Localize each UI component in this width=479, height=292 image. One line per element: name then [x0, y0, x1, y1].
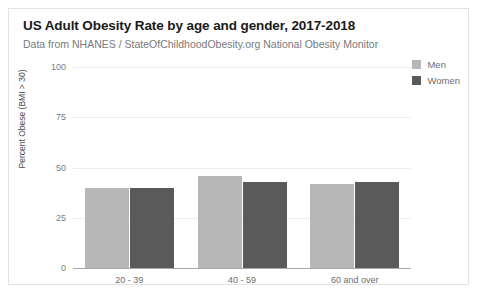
bar-men[interactable]: [198, 176, 242, 268]
y-tick-label-50: 50: [56, 163, 66, 173]
bar-pair: [298, 67, 411, 268]
y-tick-label-75: 75: [56, 112, 66, 122]
x-tick-label: 40 - 59: [186, 275, 299, 285]
plot-wrapper: Percent Obese (BMI > 30) 0255075100 20 -…: [9, 9, 470, 286]
y-tick-label-0: 0: [61, 263, 66, 273]
bar-men[interactable]: [85, 188, 129, 268]
y-axis-title: Percent Obese (BMI > 30): [17, 54, 27, 184]
bar-women[interactable]: [130, 188, 174, 268]
bar-pair: [73, 67, 186, 268]
gridline-0: 0: [73, 268, 411, 269]
bar-group: 20 - 39: [73, 67, 186, 268]
bar-men[interactable]: [310, 184, 354, 268]
bar-groups: 20 - 3940 - 5960 and over: [73, 67, 411, 268]
plot-area: 0255075100 20 - 3940 - 5960 and over: [73, 67, 411, 268]
bar-pair: [186, 67, 299, 268]
y-tick-label-100: 100: [51, 62, 66, 72]
x-tick-label: 60 and over: [298, 275, 411, 285]
bar-women[interactable]: [355, 182, 399, 268]
bar-women[interactable]: [243, 182, 287, 268]
y-tick-label-25: 25: [56, 213, 66, 223]
bar-group: 40 - 59: [186, 67, 299, 268]
chart-card: US Adult Obesity Rate by age and gender,…: [8, 8, 469, 285]
x-tick-label: 20 - 39: [73, 275, 186, 285]
bar-group: 60 and over: [298, 67, 411, 268]
